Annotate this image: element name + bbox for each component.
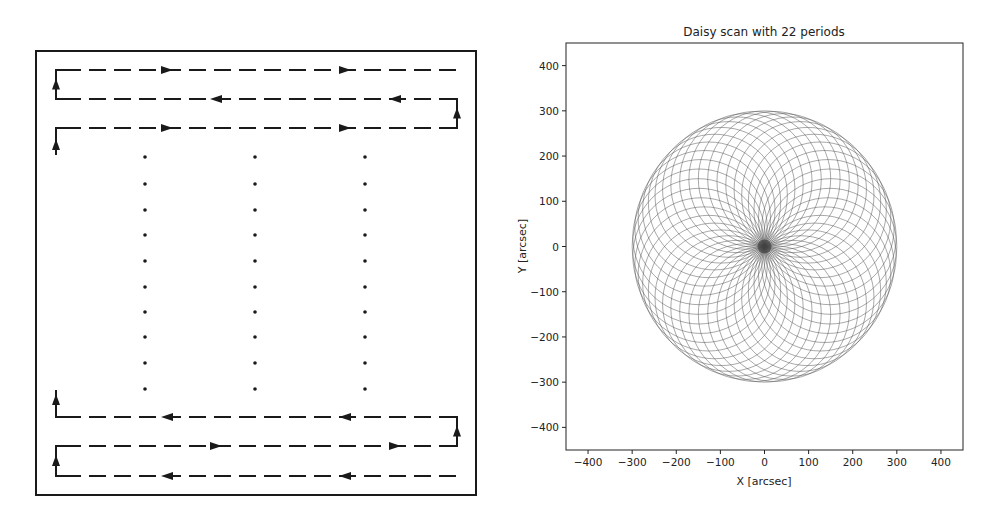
daisy-petal	[663, 236, 795, 372]
arrow-left-icon	[161, 413, 173, 421]
x-tick-label: −200	[662, 456, 691, 468]
ellipsis-dot	[253, 259, 257, 263]
x-tick-label: −300	[618, 456, 647, 468]
arrow-left-icon	[161, 472, 173, 480]
daisy-petal	[643, 142, 775, 278]
y-tick-label: −100	[530, 286, 559, 298]
ellipsis-dot	[143, 208, 147, 212]
y-tick-label: 300	[539, 105, 559, 117]
arrow-right-icon	[210, 442, 222, 450]
ellipsis-dot	[253, 285, 257, 289]
arrow-right-icon	[161, 124, 173, 132]
ellipsis-dot	[253, 335, 257, 339]
raster-scan-svg	[0, 0, 500, 520]
ellipsis-dot	[253, 208, 257, 212]
daisy-petal	[734, 122, 866, 258]
daisy-scan-chart: Daisy scan with 22 periods X [arcsec] Y …	[500, 0, 995, 520]
daisy-petal	[759, 207, 891, 343]
y-tick-label: 400	[539, 60, 559, 72]
y-tick-label: 200	[539, 150, 559, 162]
ellipsis-dot	[363, 233, 367, 237]
ellipsis-dot	[253, 361, 257, 365]
ellipsis-dot	[143, 182, 147, 186]
daisy-curve	[632, 111, 897, 382]
ellipsis-dot	[363, 310, 367, 314]
ellipsis-dot	[143, 233, 147, 237]
x-tick-label: 300	[887, 456, 907, 468]
daisy-petal	[643, 215, 775, 351]
arrow-right-icon	[339, 66, 351, 74]
x-tick-label: −100	[706, 456, 735, 468]
ellipsis-dot	[363, 387, 367, 391]
y-tick-label: 0	[552, 241, 559, 253]
arrow-up-icon	[453, 108, 461, 119]
ellipsis-dot	[363, 335, 367, 339]
x-axis-label: X [arcsec]	[736, 475, 791, 488]
x-tick-label: 200	[843, 456, 863, 468]
daisy-petal	[759, 150, 891, 286]
daisy-petal	[754, 142, 886, 278]
ellipsis-dot	[363, 208, 367, 212]
daisy-petal	[726, 117, 858, 253]
ellipsis-dot	[253, 182, 257, 186]
ellipsis-dot	[363, 361, 367, 365]
daisy-petal	[671, 240, 803, 376]
daisy-chart-svg: Daisy scan with 22 periods X [arcsec] Y …	[500, 0, 995, 520]
daisy-petal	[638, 150, 770, 286]
daisy-petal	[638, 207, 770, 343]
arrow-left-icon	[339, 472, 351, 480]
daisy-petal	[754, 215, 886, 351]
x-tick-label: 100	[799, 456, 819, 468]
y-tick-label: 100	[539, 195, 559, 207]
ellipsis-dot	[253, 310, 257, 314]
y-tick-label: −200	[530, 331, 559, 343]
x-tick-label: −400	[574, 456, 603, 468]
raster-scan-diagram	[0, 0, 500, 520]
daisy-petal	[726, 240, 858, 376]
ellipsis-dot	[363, 259, 367, 263]
x-tick-label: 400	[931, 456, 951, 468]
arrow-up-icon	[52, 79, 60, 90]
diagram-frame	[36, 51, 476, 495]
ellipsis-dot	[253, 155, 257, 159]
arrow-right-icon	[339, 124, 351, 132]
daisy-petal	[671, 117, 803, 253]
daisy-center-density	[758, 240, 772, 254]
y-axis-label: Y [arcsec]	[516, 219, 529, 274]
x-tick-label: 0	[761, 456, 768, 468]
daisy-petal	[734, 236, 866, 372]
arrow-up-icon	[453, 426, 461, 437]
entry-connector	[56, 128, 66, 155]
arrow-up-icon	[52, 139, 60, 150]
ellipsis-dot	[363, 285, 367, 289]
arrow-up-icon	[52, 455, 60, 466]
arrow-up-icon	[52, 394, 60, 405]
arrow-left-icon	[389, 95, 401, 103]
ellipsis-dot	[143, 285, 147, 289]
ellipsis-dot	[143, 310, 147, 314]
arrow-right-icon	[161, 66, 173, 74]
y-tick-label: −300	[530, 376, 559, 388]
arrow-right-icon	[389, 442, 401, 450]
arrow-left-icon	[210, 95, 222, 103]
y-tick-label: −400	[530, 421, 559, 433]
arrow-left-icon	[339, 413, 351, 421]
chart-title: Daisy scan with 22 periods	[683, 25, 845, 39]
daisy-petal	[663, 122, 795, 258]
ellipsis-dot	[143, 361, 147, 365]
ellipsis-dot	[143, 259, 147, 263]
ellipsis-dot	[363, 182, 367, 186]
ellipsis-dot	[143, 155, 147, 159]
ellipsis-dot	[253, 233, 257, 237]
ellipsis-dot	[253, 387, 257, 391]
ellipsis-dot	[363, 155, 367, 159]
ellipsis-dot	[143, 387, 147, 391]
ellipsis-dot	[143, 335, 147, 339]
